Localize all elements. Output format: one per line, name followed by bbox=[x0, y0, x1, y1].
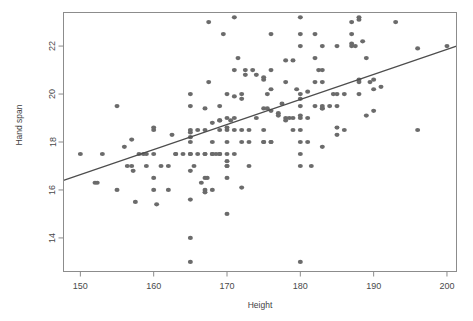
data-point bbox=[371, 87, 376, 91]
data-point bbox=[342, 92, 347, 96]
data-point bbox=[217, 118, 222, 122]
data-point bbox=[309, 164, 314, 168]
data-point bbox=[247, 164, 252, 168]
x-tick-label: 160 bbox=[146, 281, 161, 291]
data-point bbox=[232, 152, 237, 156]
data-point bbox=[129, 164, 134, 168]
data-point bbox=[210, 140, 215, 144]
data-point bbox=[217, 128, 222, 132]
data-point bbox=[221, 32, 226, 36]
data-point bbox=[188, 260, 193, 264]
data-point bbox=[232, 116, 237, 120]
data-point bbox=[225, 152, 230, 156]
data-point bbox=[188, 104, 193, 108]
data-point bbox=[210, 188, 215, 192]
y-tick-label: 14 bbox=[48, 233, 58, 243]
data-point bbox=[239, 185, 244, 189]
data-point bbox=[232, 15, 237, 19]
data-point bbox=[327, 104, 332, 108]
data-point bbox=[203, 152, 208, 156]
data-point bbox=[199, 181, 204, 185]
data-point bbox=[173, 152, 178, 156]
data-point bbox=[239, 140, 244, 144]
data-point bbox=[298, 152, 303, 156]
data-point bbox=[364, 56, 369, 60]
x-tick-label: 170 bbox=[219, 281, 234, 291]
data-point bbox=[393, 20, 398, 24]
data-point bbox=[269, 68, 274, 72]
data-point bbox=[290, 58, 295, 62]
data-point bbox=[290, 116, 295, 120]
data-point bbox=[151, 188, 156, 192]
data-point bbox=[115, 104, 120, 108]
data-point bbox=[217, 152, 222, 156]
data-point bbox=[334, 92, 339, 96]
data-point bbox=[203, 106, 208, 110]
data-point bbox=[159, 164, 164, 168]
data-point bbox=[188, 152, 193, 156]
data-point bbox=[225, 176, 230, 180]
data-point bbox=[298, 44, 303, 48]
data-point bbox=[166, 164, 171, 168]
data-point bbox=[250, 68, 255, 72]
data-point bbox=[298, 164, 303, 168]
data-point bbox=[188, 197, 193, 201]
x-tick-label: 200 bbox=[439, 281, 454, 291]
data-point bbox=[125, 164, 130, 168]
data-point bbox=[122, 145, 127, 149]
data-point bbox=[265, 92, 270, 96]
y-tick-label: 20 bbox=[48, 89, 58, 99]
data-point bbox=[364, 114, 369, 118]
data-point bbox=[151, 176, 156, 180]
data-point bbox=[225, 128, 230, 132]
data-point bbox=[349, 32, 354, 36]
data-point bbox=[188, 92, 193, 96]
data-point bbox=[290, 128, 295, 132]
data-point bbox=[269, 140, 274, 144]
data-point bbox=[151, 126, 156, 130]
data-point bbox=[205, 176, 210, 180]
data-point bbox=[444, 44, 449, 48]
data-point bbox=[232, 94, 237, 98]
x-tick-label: 180 bbox=[293, 281, 308, 291]
data-point bbox=[254, 73, 259, 77]
data-point bbox=[305, 90, 310, 94]
scatter-plot-figure: 150160170180190200 1416182022 Height Han… bbox=[0, 0, 473, 321]
data-point bbox=[353, 44, 358, 48]
data-point bbox=[243, 73, 248, 77]
data-point bbox=[144, 164, 149, 168]
data-point bbox=[342, 128, 347, 132]
data-point bbox=[195, 152, 200, 156]
data-point bbox=[247, 140, 252, 144]
data-point bbox=[151, 152, 156, 156]
data-point bbox=[206, 20, 211, 24]
data-point bbox=[320, 80, 325, 84]
data-point bbox=[195, 128, 200, 132]
data-point bbox=[188, 140, 193, 144]
data-point bbox=[225, 164, 230, 168]
data-point bbox=[312, 80, 317, 84]
data-point bbox=[356, 18, 361, 22]
data-point bbox=[298, 140, 303, 144]
data-point bbox=[225, 212, 230, 216]
data-point bbox=[254, 116, 259, 120]
y-tick-label: 16 bbox=[48, 185, 58, 195]
data-point bbox=[170, 133, 175, 137]
data-point bbox=[298, 32, 303, 36]
data-point bbox=[115, 188, 120, 192]
data-point bbox=[320, 44, 325, 48]
data-point bbox=[232, 68, 237, 72]
data-point bbox=[294, 87, 299, 91]
data-point bbox=[181, 152, 186, 156]
data-point bbox=[239, 128, 244, 132]
data-point bbox=[320, 145, 325, 149]
data-point bbox=[154, 202, 159, 206]
x-axis-title: Height bbox=[248, 300, 273, 310]
data-point bbox=[239, 97, 244, 101]
data-point bbox=[261, 128, 266, 132]
data-point bbox=[415, 46, 420, 50]
data-point bbox=[334, 133, 339, 137]
data-point bbox=[210, 121, 215, 125]
data-point bbox=[283, 58, 288, 62]
figure-background bbox=[0, 0, 473, 321]
